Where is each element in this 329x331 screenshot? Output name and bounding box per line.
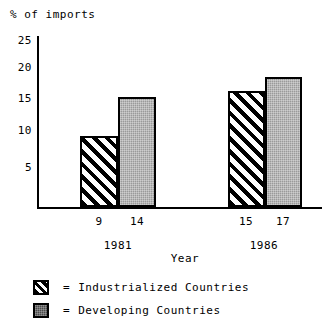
bar-value-1986-developing: 17	[276, 216, 290, 227]
plot-area	[37, 36, 322, 209]
legend-label-developing: Developing Countries	[78, 304, 220, 317]
group-label-1986: 1986	[250, 240, 279, 251]
y-axis-line	[37, 36, 39, 209]
bar-1986-developing	[265, 77, 302, 207]
x-axis-title: Year	[171, 252, 200, 265]
bar-value-1986-industrialized: 15	[239, 216, 253, 227]
legend-swatch-hatch-icon	[33, 280, 49, 295]
y-axis-title: % of imports	[10, 8, 95, 21]
bar-1981-developing	[118, 97, 156, 207]
legend-swatch-solid-icon	[33, 303, 49, 318]
y-tick-5: 5	[25, 162, 32, 173]
y-tick-20: 20	[18, 62, 32, 73]
legend-label-industrialized: Industrialized Countries	[78, 281, 249, 294]
bar-value-1981-industrialized: 9	[95, 216, 102, 227]
y-tick-10: 10	[18, 125, 32, 136]
legend-equals-sign-1: =	[63, 281, 70, 294]
bar-1986-industrialized	[228, 91, 265, 207]
legend-item-industrialized: = Industrialized Countries	[33, 276, 323, 299]
y-tick-15: 15	[18, 93, 32, 104]
legend-item-developing: = Developing Countries	[33, 299, 323, 322]
bar-value-1981-developing: 14	[130, 216, 144, 227]
legend: = Industrialized Countries = Developing …	[33, 276, 323, 322]
y-tick-25: 25	[18, 35, 32, 46]
y-axis-tick-labels: 25 20 15 10 5	[0, 36, 32, 209]
bar-1981-industrialized	[80, 136, 118, 207]
x-axis-line	[37, 207, 322, 209]
group-label-1981: 1981	[104, 240, 133, 251]
bar-chart: % of imports 25 20 15 10 5 9 14 15 17 19…	[0, 0, 329, 331]
legend-equals-sign-2: =	[63, 304, 70, 317]
